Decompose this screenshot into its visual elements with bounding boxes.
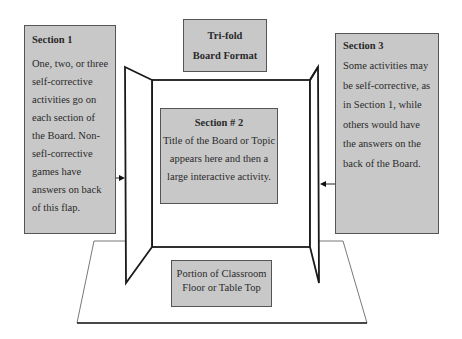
arrow-section1-to-left-flap — [116, 175, 125, 181]
section-1-callout: Section 1 One, two, or three self-correc… — [24, 25, 116, 234]
section-2-callout: Section # 2 Title of the Board or Topic … — [160, 108, 278, 204]
floor-label-line-2: Floor or Table Top — [172, 281, 271, 295]
board-left-flap — [125, 67, 152, 283]
arrow-section3-to-right-flap — [320, 181, 335, 187]
floor-label-line-1: Portion of Classroom — [172, 267, 271, 281]
section-2-body: Title of the Board or Topic appears here… — [161, 132, 277, 186]
floor-label: Portion of Classroom Floor or Table Top — [171, 260, 272, 307]
section-1-heading: Section 1 — [32, 31, 109, 49]
title-line-2: Board Format — [184, 46, 266, 66]
section-2-heading: Section # 2 — [161, 115, 277, 132]
section-3-body: Some activities may be self-corrective, … — [343, 56, 434, 173]
section-3-callout: Section 3 Some activities may be self-co… — [335, 33, 439, 234]
section-1-body: One, two, or three self-corrective activ… — [32, 55, 109, 217]
title-line-1: Tri-fold — [184, 26, 266, 46]
title-box: Tri-fold Board Format — [183, 19, 267, 72]
section-3-heading: Section 3 — [343, 37, 434, 54]
board-right-flap — [310, 67, 319, 283]
